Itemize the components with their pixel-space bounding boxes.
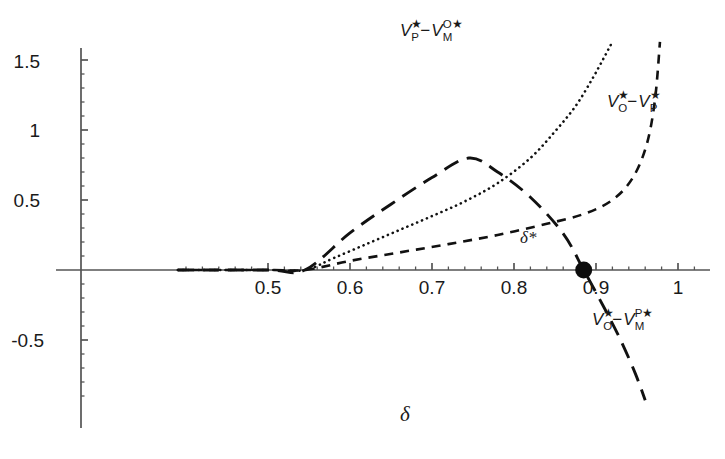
chart-canvas (0, 0, 725, 459)
delta-star-label: δ* (520, 229, 536, 246)
v-symbol: V (592, 310, 603, 329)
v1-subscript: P (411, 32, 419, 44)
curve-0 (178, 42, 613, 271)
xtick-label-0p6: 0.6 (337, 278, 363, 297)
ytick-label-neg0p5: -0.5 (11, 331, 44, 350)
y-axis-ticks (81, 60, 88, 396)
x-axis-label: δ (400, 404, 410, 425)
data-curves (178, 42, 660, 400)
v1-superscript: ★ (618, 90, 629, 102)
v1-superscript: ★ (603, 308, 614, 320)
v2-superscript: P★ (635, 308, 654, 320)
v2-subscript: M (635, 321, 645, 333)
delta-star-text: δ* (520, 228, 536, 247)
ytick-label-1: 1 (29, 121, 40, 140)
v1-subscript: O (603, 321, 612, 333)
v-symbol: V (400, 21, 411, 40)
v2-superscript: ★ (650, 90, 661, 102)
xtick-label-0p5: 0.5 (255, 278, 281, 297)
v-symbol: V (607, 92, 618, 111)
delta-star-dot (575, 262, 592, 279)
v2-superscript: O★ (443, 19, 463, 31)
xtick-label-0p8: 0.8 (501, 278, 527, 297)
xtick-label-1: 1 (673, 278, 684, 297)
annotation-markers (575, 262, 592, 279)
v-symbol: V (638, 92, 649, 111)
curve-label-vo-minus-vmp: V★O−VP★M (592, 311, 648, 328)
ytick-label-0p5: 0.5 (14, 191, 40, 210)
v2-subscript: M (443, 32, 453, 44)
xtick-label-0p7: 0.7 (419, 278, 445, 297)
ytick-label-1p5: 1.5 (14, 52, 40, 71)
curve-1 (178, 42, 660, 271)
curve-2 (178, 158, 645, 400)
v1-superscript: ★ (411, 19, 422, 31)
curve-label-vp-minus-vmo: V★P−VO★M (400, 22, 456, 39)
v-symbol: V (431, 21, 442, 40)
xtick-label-0p9: 0.9 (583, 278, 609, 297)
v1-subscript: O (618, 103, 627, 115)
v-symbol: V (623, 310, 634, 329)
v2-subscript: P (650, 103, 658, 115)
curve-label-vo-minus-vp: V★O−V★P (607, 93, 658, 110)
